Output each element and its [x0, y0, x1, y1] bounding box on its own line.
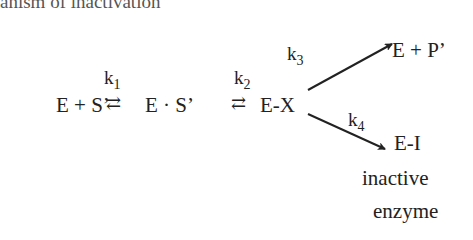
reaction-arrows — [0, 0, 473, 240]
arrow-to-inactive — [308, 114, 385, 149]
arrow-to-product — [308, 44, 392, 90]
